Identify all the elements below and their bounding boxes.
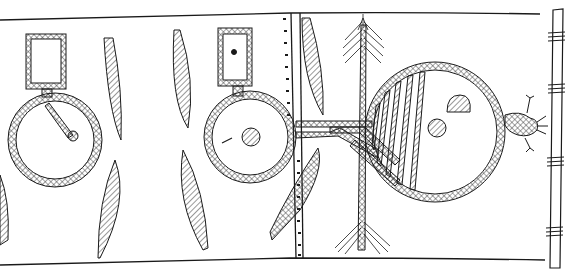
left-circle-with-box — [8, 34, 102, 187]
middle-circle-with-box — [204, 28, 296, 183]
illustration-canvas — [0, 0, 575, 278]
pole — [546, 9, 565, 268]
frog-figure — [505, 95, 548, 152]
hide-drawing — [0, 0, 575, 278]
right-large-circle — [365, 62, 505, 202]
